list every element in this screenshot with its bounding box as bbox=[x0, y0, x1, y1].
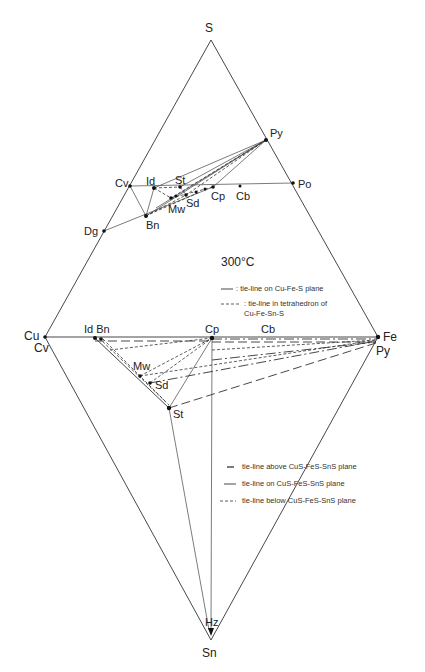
vertex-label-s: S bbox=[205, 21, 213, 35]
upper-legend: : tie-line on Cu-Fe-S plane : tie-line i… bbox=[221, 284, 328, 318]
vertex-label-sn: Sn bbox=[202, 646, 217, 660]
phase-label-cb: Cb bbox=[236, 190, 250, 202]
legend-upper-solid: : tie-line on Cu-Fe-S plane bbox=[236, 284, 324, 293]
vertex-label-cv-lower: Cv bbox=[34, 341, 49, 355]
legend-lower-above: tie-line above CuS-FeS-SnS plane bbox=[242, 462, 357, 471]
lower-legend: tie-line above CuS-FeS-SnS plane tie-lin… bbox=[220, 462, 357, 505]
phase-label-py: Py bbox=[270, 127, 283, 139]
phase-label-cp-lower: Cp bbox=[205, 323, 219, 335]
legend-lower-on: tie-line on CuS-FeS-SnS plane bbox=[242, 479, 345, 488]
legend-upper-dashed-cont: Cu-Fe-Sn-S bbox=[244, 309, 284, 318]
phase-label-bn: Bn bbox=[146, 219, 159, 231]
phase-label-mw-lower: Mw bbox=[133, 360, 150, 372]
phase-label-st-lower: St bbox=[173, 408, 183, 420]
phase-label-cv: Cv bbox=[115, 177, 129, 189]
vertex-label-fe: Fe bbox=[383, 330, 397, 344]
legend-lower-below: tie-line below CuS-FeS-SnS plane bbox=[242, 496, 356, 505]
vertex-label-py-lower: Py bbox=[376, 344, 390, 358]
upper-triangle-frame bbox=[45, 40, 378, 337]
legend-upper-dashed: : tie-line in tetrahedron of bbox=[244, 299, 328, 308]
phase-label-hz: Hz bbox=[205, 616, 218, 628]
phase-label-mw: Mw bbox=[168, 203, 185, 215]
temperature-label: 300°C bbox=[221, 255, 255, 269]
phase-label-id-bn: Id Bn bbox=[84, 323, 110, 335]
phase-label-sd: Sd bbox=[186, 197, 199, 209]
phase-label-st: St bbox=[175, 174, 185, 186]
phase-label-cb-lower: Cb bbox=[261, 323, 275, 335]
upper-points bbox=[102, 138, 295, 233]
phase-label-sd-lower: Sd bbox=[155, 379, 168, 391]
phase-label-dg: Dg bbox=[84, 225, 98, 237]
upper-tie-lines bbox=[104, 140, 293, 231]
phase-label-id: Id bbox=[146, 175, 155, 187]
phase-label-po: Po bbox=[298, 178, 311, 190]
phase-label-cp: Cp bbox=[211, 190, 225, 202]
phase-diagram: S Cu Cv Fe Py Sn Hz Py Cv Id St Po Cp Cb… bbox=[0, 0, 425, 672]
